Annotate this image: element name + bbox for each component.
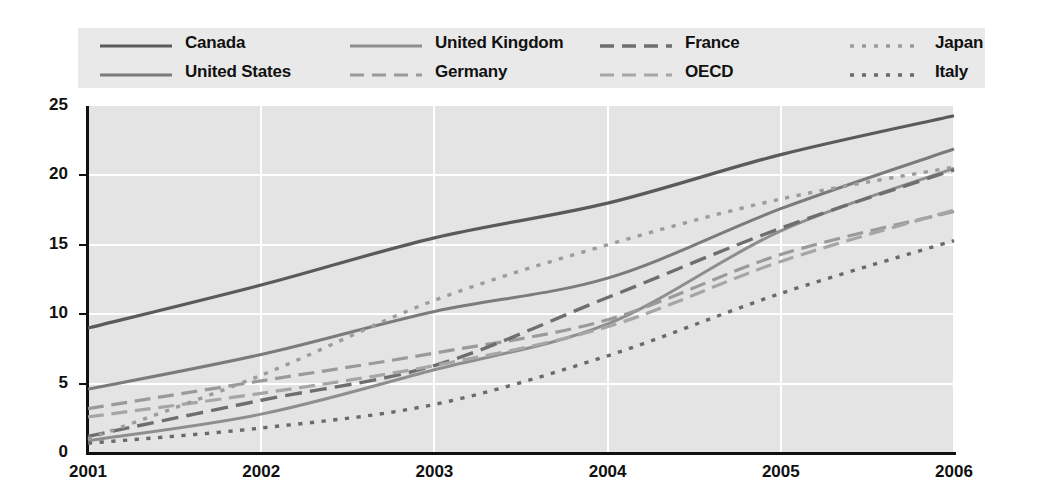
legend-label: Canada <box>185 33 245 53</box>
legend-item-united-states[interactable]: United States <box>100 57 291 87</box>
legend-item-canada[interactable]: Canada <box>100 28 245 58</box>
line-chart: 0510152025 200120022003200420052006 <box>0 100 1063 501</box>
legend-label: Germany <box>435 62 507 82</box>
legend-label: United Kingdom <box>435 33 563 53</box>
legend-swatch-solid <box>100 41 172 45</box>
legend-item-united-kingdom[interactable]: United Kingdom <box>350 28 563 58</box>
legend-swatch-dotted <box>850 70 922 74</box>
legend-swatch-dashed <box>600 41 672 45</box>
legend-label: United States <box>185 62 291 82</box>
legend-label: OECD <box>685 62 733 82</box>
series-lines <box>0 100 1063 501</box>
legend-item-germany[interactable]: Germany <box>350 57 507 87</box>
legend-item-oecd[interactable]: OECD <box>600 57 733 87</box>
legend-label: Japan <box>935 33 983 53</box>
legend-swatch-dashed <box>600 70 672 74</box>
legend-swatch-solid <box>350 41 422 45</box>
chart-legend: CanadaUnited StatesUnited KingdomGermany… <box>78 28 985 88</box>
legend-item-italy[interactable]: Italy <box>850 57 968 87</box>
legend-swatch-dotted <box>850 41 922 45</box>
series-line-italy <box>88 241 954 444</box>
legend-label: Italy <box>935 62 968 82</box>
legend-item-france[interactable]: France <box>600 28 740 58</box>
series-line-united-states <box>88 149 954 389</box>
legend-item-japan[interactable]: Japan <box>850 28 983 58</box>
legend-swatch-dashed <box>350 70 422 74</box>
series-line-germany <box>88 211 954 408</box>
series-line-france <box>88 170 954 436</box>
legend-label: France <box>685 33 740 53</box>
legend-swatch-solid <box>100 70 172 74</box>
